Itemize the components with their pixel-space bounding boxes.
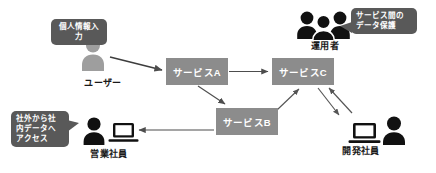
admin-label: 運用者 bbox=[288, 39, 362, 52]
sales-figure bbox=[80, 116, 140, 150]
service-box-c-label: サービスC bbox=[279, 65, 327, 79]
user-label: ユーザー bbox=[58, 76, 148, 89]
service-box-b-label: サービスB bbox=[223, 115, 271, 129]
service-box-a[interactable]: サービスA bbox=[166, 58, 228, 85]
arrow-service-b-to-service-c bbox=[277, 89, 299, 110]
service-box-c[interactable]: サービスC bbox=[272, 58, 334, 85]
arrow-dev-to-service-c bbox=[329, 88, 352, 113]
service-box-a-label: サービスA bbox=[173, 65, 221, 79]
sales-label: 営業社員 bbox=[66, 147, 152, 160]
dev-label: 開発社員 bbox=[318, 144, 404, 157]
person-with-laptop-icon bbox=[80, 116, 140, 146]
callout-user-personal-info: 個人情報入力 bbox=[51, 19, 107, 45]
laptop-with-person-icon bbox=[348, 114, 408, 146]
arrow-service-c-to-dev bbox=[318, 88, 339, 115]
arrow-service-a-to-service-b bbox=[198, 86, 225, 104]
service-box-b[interactable]: サービスB bbox=[216, 108, 278, 135]
diagram-canvas: サービスA サービスC サービスB ユーザー 運用者 bbox=[0, 0, 436, 173]
callout-sales-external-access: 社外から社 内データへ アクセス bbox=[11, 111, 69, 147]
callout-admin-data-protection: サービス間の データ保護 bbox=[351, 8, 417, 34]
arrow-user-to-service-a bbox=[110, 57, 162, 70]
